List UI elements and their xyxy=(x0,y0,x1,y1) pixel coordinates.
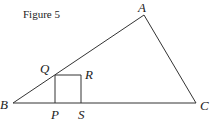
label-p: P xyxy=(50,107,59,122)
triangle-abc xyxy=(13,15,196,103)
side-ab xyxy=(13,15,144,103)
label-s: S xyxy=(78,107,85,122)
label-a: A xyxy=(137,0,146,15)
side-ca xyxy=(144,15,196,103)
square-pqrs xyxy=(55,75,81,103)
figure-5-diagram: Figure 5 A B C Q R P S xyxy=(0,0,218,123)
label-c: C xyxy=(200,98,209,113)
label-q: Q xyxy=(40,61,50,76)
label-r: R xyxy=(84,67,93,82)
figure-caption: Figure 5 xyxy=(23,8,60,20)
label-b: B xyxy=(0,97,8,112)
